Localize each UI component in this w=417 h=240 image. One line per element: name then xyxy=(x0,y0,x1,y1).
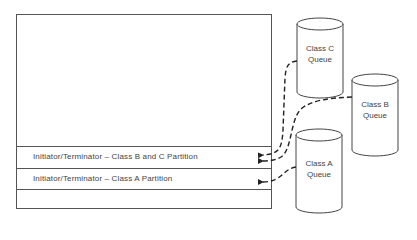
class-b-queue-label-line2: Queue xyxy=(352,110,398,121)
class-c-queue-label: Class C Queue xyxy=(297,43,343,65)
class-b-queue-label-line1: Class B xyxy=(352,99,398,110)
class-c-queue-label-line1: Class C xyxy=(297,43,343,54)
class-b-queue-label: Class B Queue xyxy=(352,99,398,121)
class-c-connection-arrow xyxy=(263,61,297,155)
class-a-queue-label-line2: Queue xyxy=(296,169,342,180)
class-a-queue-label-line1: Class A xyxy=(296,158,342,169)
class-a-queue-label: Class A Queue xyxy=(296,158,342,180)
class-a-connection-arrow xyxy=(263,167,296,182)
class-c-queue-label-line2: Queue xyxy=(297,54,343,65)
